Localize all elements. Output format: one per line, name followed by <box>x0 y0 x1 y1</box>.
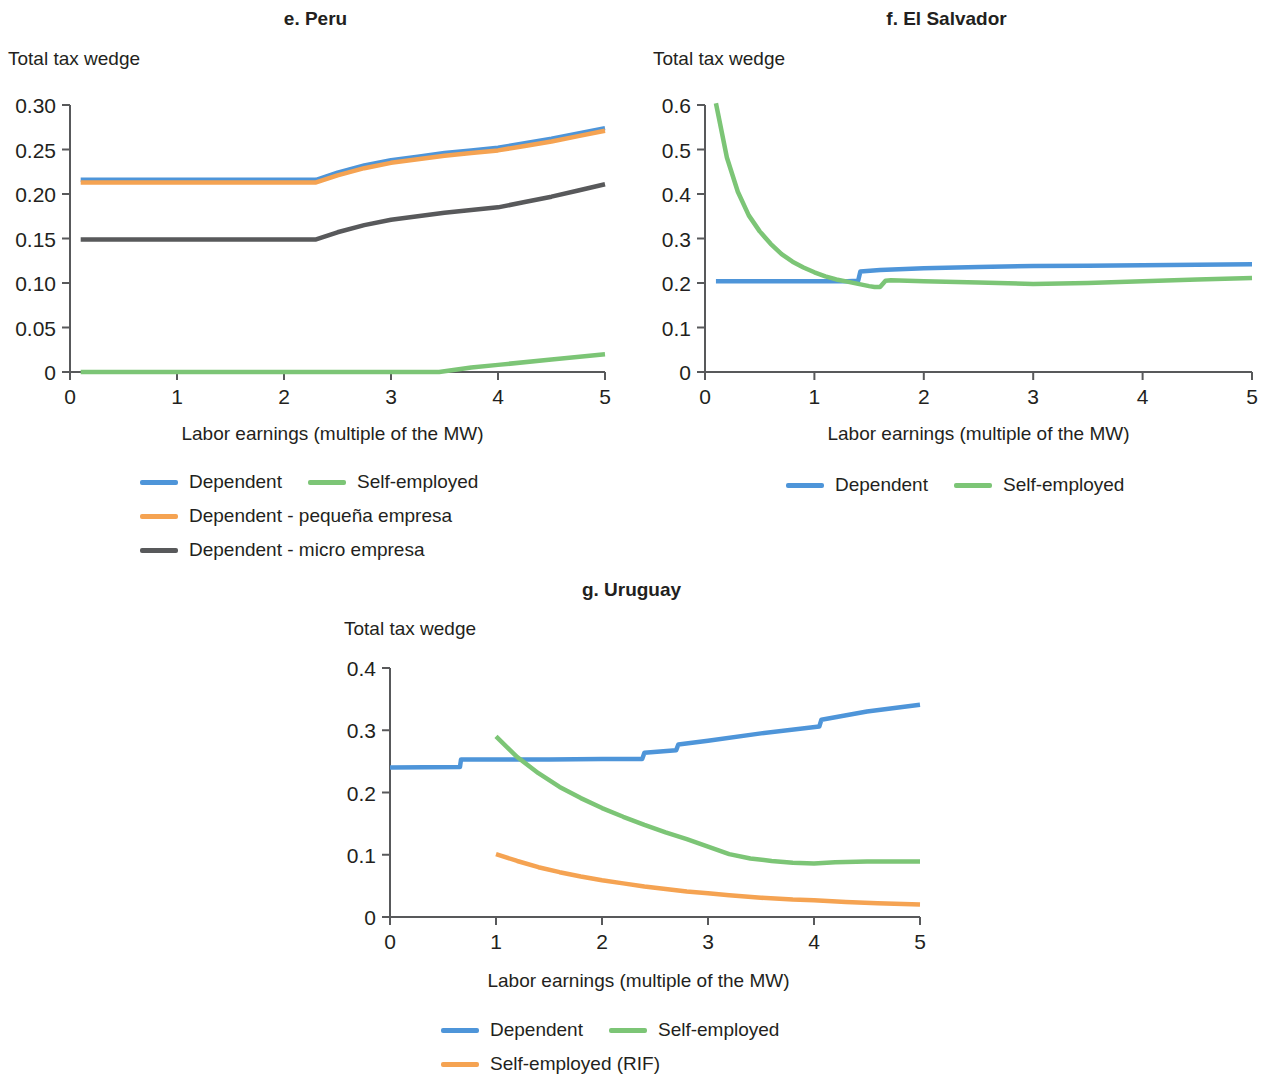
legend-label: Dependent - pequeña empresa <box>189 505 452 527</box>
x-axis-title-peru: Labor earnings (multiple of the MW) <box>60 423 605 445</box>
x-tick-label: 4 <box>808 930 820 953</box>
x-axis-title-el-salvador: Labor earnings (multiple of the MW) <box>706 423 1251 445</box>
legend-item[interactable]: Dependent <box>441 1019 583 1041</box>
series-line <box>716 103 1252 287</box>
y-tick-label: 0.3 <box>347 719 376 742</box>
legend-swatch-line-icon <box>441 1028 479 1033</box>
legend-item[interactable]: Self-employed <box>308 471 478 493</box>
chart-svg-el-salvador: 00.10.20.30.40.50.6012345 <box>631 0 1262 410</box>
legend-label: Dependent <box>490 1019 583 1041</box>
x-tick-label: 4 <box>492 385 504 408</box>
legend-swatch-line-icon <box>954 483 992 488</box>
legend-row: DependentSelf-employed <box>786 468 1226 502</box>
plot-area-peru: 00.050.100.150.200.250.30012345 <box>0 0 631 410</box>
legend-swatch-line-icon <box>308 480 346 485</box>
y-tick-label: 0.4 <box>347 657 377 680</box>
x-tick-label: 0 <box>384 930 396 953</box>
y-tick-label: 0 <box>364 906 376 929</box>
legend-label: Self-employed <box>357 471 478 493</box>
x-tick-label: 4 <box>1137 385 1149 408</box>
x-tick-label: 0 <box>699 385 711 408</box>
x-tick-label: 1 <box>809 385 821 408</box>
x-tick-label: 1 <box>171 385 183 408</box>
x-tick-label: 5 <box>1246 385 1258 408</box>
x-tick-label: 2 <box>918 385 930 408</box>
legend-label: Self-employed <box>658 1019 779 1041</box>
x-tick-label: 0 <box>64 385 76 408</box>
legend-label: Self-employed (RIF) <box>490 1053 660 1075</box>
legend-item[interactable]: Dependent <box>140 471 282 493</box>
y-tick-label: 0 <box>679 361 691 384</box>
legend-swatch-line-icon <box>140 480 178 485</box>
legend-swatch-line-icon <box>140 514 178 519</box>
y-tick-label: 0.15 <box>15 228 56 251</box>
panel-peru: e. Peru Total tax wedge 00.050.100.150.2… <box>0 0 631 570</box>
legend-item[interactable]: Self-employed <box>954 474 1124 496</box>
x-tick-label: 3 <box>1027 385 1039 408</box>
x-tick-label: 2 <box>596 930 608 953</box>
y-tick-label: 0.1 <box>347 844 376 867</box>
series-line <box>390 705 920 768</box>
plot-area-uruguay: 00.10.20.30.4012345 <box>316 575 947 960</box>
panel-uruguay: g. Uruguay Total tax wedge 00.10.20.30.4… <box>316 575 947 1079</box>
series-line <box>81 131 605 183</box>
x-tick-label: 5 <box>599 385 611 408</box>
y-tick-label: 0.6 <box>662 94 691 117</box>
y-tick-label: 0.2 <box>347 782 376 805</box>
legend-swatch-line-icon <box>609 1028 647 1033</box>
y-tick-label: 0 <box>44 361 56 384</box>
legend-uruguay: DependentSelf-employedSelf-employed (RIF… <box>441 1013 901 1079</box>
y-tick-label: 0.10 <box>15 272 56 295</box>
series-line <box>81 184 605 239</box>
y-tick-label: 0.25 <box>15 139 56 162</box>
legend-swatch-line-icon <box>441 1062 479 1067</box>
legend-row: Dependent - micro empresa <box>140 533 620 567</box>
legend-item[interactable]: Dependent <box>786 474 928 496</box>
legend-label: Dependent <box>835 474 928 496</box>
legend-el-salvador: DependentSelf-employed <box>786 468 1226 502</box>
series-line <box>81 354 605 372</box>
legend-item[interactable]: Dependent - micro empresa <box>140 539 425 561</box>
y-tick-label: 0.5 <box>662 139 691 162</box>
plot-area-el-salvador: 00.10.20.30.40.50.6012345 <box>631 0 1262 410</box>
legend-row: DependentSelf-employed <box>140 465 620 499</box>
x-tick-label: 3 <box>385 385 397 408</box>
y-tick-label: 0.2 <box>662 272 691 295</box>
x-axis-title-uruguay: Labor earnings (multiple of the MW) <box>366 970 911 992</box>
x-tick-label: 1 <box>490 930 502 953</box>
panel-el-salvador: f. El Salvador Total tax wedge 00.10.20.… <box>631 0 1262 520</box>
legend-swatch-line-icon <box>786 483 824 488</box>
legend-label: Dependent <box>189 471 282 493</box>
y-tick-label: 0.30 <box>15 94 56 117</box>
legend-item[interactable]: Self-employed <box>609 1019 779 1041</box>
legend-row: Dependent - pequeña empresa <box>140 499 620 533</box>
legend-item[interactable]: Dependent - pequeña empresa <box>140 505 452 527</box>
x-tick-label: 5 <box>914 930 926 953</box>
legend-peru: DependentSelf-employedDependent - pequeñ… <box>140 465 620 567</box>
legend-label: Dependent - micro empresa <box>189 539 425 561</box>
x-tick-label: 3 <box>702 930 714 953</box>
x-tick-label: 2 <box>278 385 290 408</box>
legend-swatch-line-icon <box>140 548 178 553</box>
y-tick-label: 0.4 <box>662 183 692 206</box>
legend-row: Self-employed (RIF) <box>441 1047 901 1079</box>
y-tick-label: 0.05 <box>15 317 56 340</box>
legend-label: Self-employed <box>1003 474 1124 496</box>
legend-row: DependentSelf-employed <box>441 1013 901 1047</box>
y-tick-label: 0.3 <box>662 228 691 251</box>
y-tick-label: 0.20 <box>15 183 56 206</box>
chart-svg-uruguay: 00.10.20.30.4012345 <box>316 575 947 960</box>
series-line <box>496 736 920 863</box>
chart-svg-peru: 00.050.100.150.200.250.30012345 <box>0 0 631 410</box>
legend-item[interactable]: Self-employed (RIF) <box>441 1053 660 1075</box>
y-tick-label: 0.1 <box>662 317 691 340</box>
